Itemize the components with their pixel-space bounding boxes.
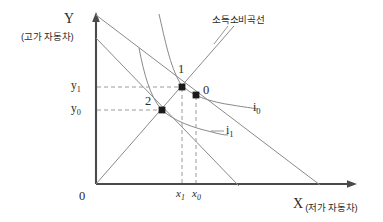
i0-subscript: 0 bbox=[256, 106, 260, 116]
origin-label: 0 bbox=[79, 190, 85, 203]
income-consumption-curve-ray bbox=[96, 26, 234, 184]
y0-tick-subscript: 0 bbox=[77, 108, 81, 117]
point-2-label: 2 bbox=[145, 95, 151, 108]
axis-group bbox=[92, 12, 357, 188]
y-axis-caption: (고가 자동차) bbox=[21, 32, 73, 42]
equilibrium-points-group bbox=[159, 84, 200, 114]
economics-indifference-curve-diagram: Y (고가 자동차) 소득소비곡선 1 0 2 y1 y0 x1 x0 i0 i… bbox=[0, 0, 383, 222]
y-axis-letter: Y bbox=[64, 12, 74, 26]
x0-tick-subscript: 0 bbox=[197, 193, 201, 202]
x-axis-label-group: X (저가 자동차) bbox=[293, 196, 358, 214]
income-consumption-curve-label: 소득소비곡선 bbox=[212, 15, 265, 25]
budget-line-rotated bbox=[96, 38, 239, 186]
budget-lines-group bbox=[96, 15, 320, 186]
x1-tick-subscript: 1 bbox=[181, 193, 185, 202]
x0-tick-label: x0 bbox=[192, 188, 201, 202]
point-1-label: 1 bbox=[178, 63, 184, 76]
indifference-curve-i1-label: i1 bbox=[226, 124, 234, 139]
x-axis-letter: X bbox=[293, 196, 303, 212]
indifference-curve-i0-label: i0 bbox=[253, 101, 261, 116]
point-1-marker bbox=[179, 84, 186, 91]
i1-subscript: 1 bbox=[229, 129, 233, 139]
y0-tick-label: y0 bbox=[71, 103, 81, 118]
y1-tick-subscript: 1 bbox=[77, 85, 81, 94]
point-0-marker bbox=[193, 92, 200, 99]
x-axis-arrowhead bbox=[347, 180, 357, 188]
x1-tick-label: x1 bbox=[176, 188, 185, 202]
x-axis-caption: (저가 자동차) bbox=[305, 200, 357, 214]
point-2-marker bbox=[159, 107, 166, 114]
point-0-label: 0 bbox=[203, 84, 209, 97]
y1-tick-label: y1 bbox=[71, 80, 81, 95]
